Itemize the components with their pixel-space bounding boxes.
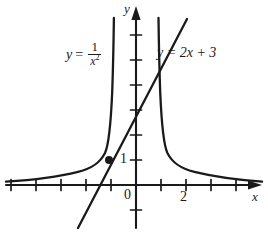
reciprocal-fraction: 1 x2 (88, 40, 101, 67)
x-tick-label-2: 2 (180, 190, 187, 204)
y-tick-label-1: 1 (120, 152, 127, 166)
y-axis-arrowhead (131, 6, 140, 20)
x-axis-label: x (252, 190, 258, 203)
reciprocal-label-y: y (66, 48, 72, 62)
origin-label: 0 (124, 188, 131, 202)
y-axis-label: y (124, 2, 130, 15)
reciprocal-label-equals: = (75, 48, 83, 62)
math-figure: y = 1 x2 y = 2x + 3 0 1 2 x y (0, 0, 268, 235)
graph-canvas (0, 0, 268, 235)
fraction-numerator: 1 (90, 40, 101, 54)
denominator-exponent: 2 (95, 53, 99, 62)
reciprocal-curve-label: y = 1 x2 (66, 41, 101, 68)
intersection-dot (105, 156, 113, 164)
linear-curve-label: y = 2x + 3 (157, 46, 216, 60)
fraction-denominator: x2 (88, 55, 101, 68)
